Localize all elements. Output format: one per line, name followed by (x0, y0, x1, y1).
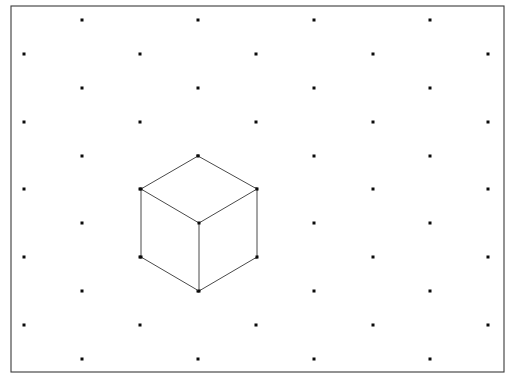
grid-dot-r1-c3 (372, 53, 375, 56)
grid-dot-r0-c1 (197, 19, 200, 22)
grid-dot-r6-c0 (81, 222, 84, 225)
grid-dot-r5-c4 (487, 188, 490, 191)
cube-vertex-top-left (140, 188, 143, 191)
grid-dot-r2-c3 (429, 87, 432, 90)
grid-dot-r4-c3 (429, 155, 432, 158)
grid-dot-r0-c3 (429, 19, 432, 22)
grid-dot-r10-c3 (429, 358, 432, 361)
grid-dot-r3-c4 (487, 121, 490, 124)
cube-vertex-bottom (198, 290, 201, 293)
grid-dot-r1-c0 (23, 53, 26, 56)
grid-dot-r9-c0 (23, 324, 26, 327)
cube-vertex-top (197, 155, 200, 158)
grid-dot-r6-c3 (429, 222, 432, 225)
cube-vertex-center (198, 222, 201, 225)
grid-dot-r5-c0 (23, 188, 26, 191)
grid-dot-r1-c1 (139, 53, 142, 56)
grid-dot-r6-c2 (313, 222, 316, 225)
grid-dot-r2-c2 (313, 87, 316, 90)
grid-dot-r3-c2 (255, 121, 258, 124)
grid-dot-r9-c2 (255, 324, 258, 327)
grid-dot-r0-c0 (81, 19, 84, 22)
grid-dot-r8-c2 (313, 290, 316, 293)
grid-dot-r3-c1 (139, 121, 142, 124)
grid-dot-r10-c2 (313, 358, 316, 361)
isometric-cube-diagram (0, 0, 515, 385)
grid-dot-r10-c0 (81, 358, 84, 361)
grid-dot-r7-c4 (487, 256, 490, 259)
grid-dot-r4-c0 (81, 155, 84, 158)
grid-dot-r8-c0 (81, 290, 84, 293)
diagram-canvas (0, 0, 515, 385)
grid-dot-r1-c4 (487, 53, 490, 56)
grid-dot-r3-c0 (23, 121, 26, 124)
grid-dot-r9-c1 (139, 324, 142, 327)
cube-vertex-bottom-left (140, 256, 143, 259)
grid-dot-r8-c3 (429, 290, 432, 293)
grid-dot-r7-c3 (372, 256, 375, 259)
grid-dot-r10-c1 (197, 358, 200, 361)
grid-dot-r7-c0 (23, 256, 26, 259)
grid-dot-r9-c3 (372, 324, 375, 327)
grid-dot-r0-c2 (313, 19, 316, 22)
grid-dot-r1-c2 (255, 53, 258, 56)
grid-dot-r3-c3 (372, 121, 375, 124)
grid-dot-r2-c0 (81, 87, 84, 90)
grid-dot-r9-c4 (487, 324, 490, 327)
grid-dot-r4-c2 (313, 155, 316, 158)
grid-dot-r2-c1 (197, 87, 200, 90)
cube-vertex-bottom-right (256, 256, 259, 259)
cube-vertex-top-right (256, 188, 259, 191)
grid-dot-r5-c3 (372, 188, 375, 191)
